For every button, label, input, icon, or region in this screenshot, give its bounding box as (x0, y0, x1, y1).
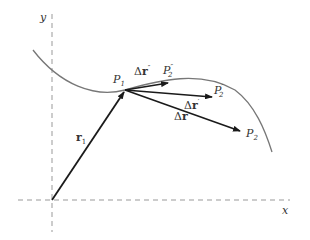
r1-label: r1 (76, 132, 86, 146)
p2p-sup: ′ (221, 83, 223, 91)
delta-r-prime-vector (125, 90, 212, 97)
y-label-text: y (40, 11, 46, 24)
delta-r-double-prime-label: Δr″ (134, 65, 150, 77)
dr-base: r (182, 110, 188, 123)
r1-sub: 1 (82, 138, 86, 146)
p2-sub: 2 (253, 134, 257, 142)
trajectory-curve (33, 50, 272, 152)
p2dp-sub: 2 (168, 71, 172, 79)
diagram-canvas (0, 0, 310, 240)
x-axis-label: x (282, 205, 288, 216)
p2-prime-label: P′2 (214, 84, 223, 99)
r1-vector (52, 92, 124, 200)
p1-label: P1 (113, 74, 125, 88)
drp-sup: ′ (198, 98, 200, 106)
p2-double-prime-label: P″2 (163, 64, 173, 79)
p1-sub: 1 (120, 80, 124, 88)
drdp-sup: ″ (148, 64, 151, 72)
p2dp-sup: ″ (170, 63, 173, 71)
delta-r-prime-label: Δr′ (184, 99, 199, 111)
x-label-text: x (282, 204, 288, 217)
drdp-delta: Δ (134, 65, 142, 78)
y-axis-label: y (40, 12, 46, 23)
p2-label: P2 (246, 128, 258, 142)
delta-r-label: Δr (174, 111, 188, 122)
dr-delta: Δ (174, 110, 182, 123)
p2p-sub: 2 (219, 91, 223, 99)
displacement-vector-diagram: y x P1 P″2 P′2 P2 r1 Δr″ Δr′ Δr (0, 0, 310, 240)
